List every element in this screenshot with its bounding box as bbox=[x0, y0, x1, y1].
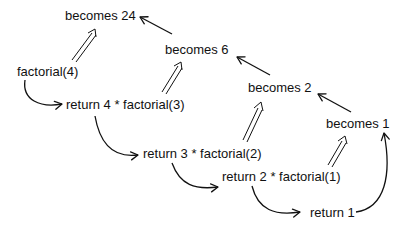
diagram-connectors bbox=[0, 0, 404, 230]
return-1-label: return 1 bbox=[310, 205, 355, 220]
arrow-becomes6-to-becomes24 bbox=[140, 17, 172, 34]
factorial-4-label: factorial(4) bbox=[17, 64, 78, 79]
becomes-2-label: becomes 2 bbox=[248, 80, 312, 95]
becomes-6-label: becomes 6 bbox=[165, 42, 229, 57]
double-arrow-factorial4-to-becomes24 bbox=[72, 29, 96, 62]
double-arrow-return3-to-becomes2 bbox=[243, 102, 263, 142]
return-arrow-return1-to-becomes1 bbox=[356, 133, 387, 212]
becomes-1-label: becomes 1 bbox=[326, 116, 390, 131]
double-arrow-return4-to-becomes6 bbox=[162, 62, 182, 94]
becomes-24-label: becomes 24 bbox=[65, 8, 136, 23]
call-arrow-return4-to-return3 bbox=[95, 116, 138, 155]
double-arrow-return2-to-becomes1 bbox=[328, 136, 347, 167]
return-3-label: return 3 * factorial(2) bbox=[143, 146, 262, 161]
call-arrow-factorial4-to-return4 bbox=[25, 80, 62, 105]
call-arrow-return3-to-return2 bbox=[172, 163, 218, 188]
return-2-label: return 2 * factorial(1) bbox=[222, 169, 341, 184]
factorial-recursion-diagram: becomes 24 factorial(4) becomes 6 return… bbox=[0, 0, 404, 230]
arrow-becomes1-to-becomes2 bbox=[318, 94, 351, 112]
arrow-becomes2-to-becomes6 bbox=[237, 57, 270, 75]
return-4-label: return 4 * factorial(3) bbox=[66, 97, 185, 112]
call-arrow-return2-to-return1 bbox=[252, 186, 300, 213]
